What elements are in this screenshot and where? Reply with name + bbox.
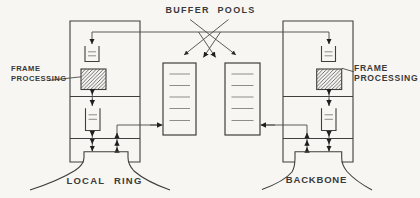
cross-arrow-to-right-pool [199, 32, 216, 57]
queue-slot-lines [88, 52, 96, 56]
queue-slot-lines [89, 115, 98, 120]
frame-processing-label-line1: FRAME [11, 64, 67, 74]
lower-queue-right [322, 108, 337, 130]
buffer-pools-leader-right [190, 20, 236, 55]
left-unit-outline [70, 21, 140, 162]
frame-processing-icon-right [317, 69, 342, 90]
left-bridge-unit [70, 21, 162, 162]
frame-processing-icon-left [81, 69, 106, 90]
buffer-pools-leader-left [184, 20, 228, 55]
frame-processing-label-left: FRAME PROCESSING [11, 64, 67, 84]
top-queue-right [322, 46, 336, 62]
buffer-pool-left [163, 63, 196, 135]
frame-processing-label-right: FRAME PROCESSING [354, 63, 418, 83]
right-unit-outline [283, 21, 353, 162]
queue-icon [322, 46, 336, 62]
local-ring-label: LOCAL RING [54, 175, 155, 186]
scanned-diagram-page: BUFFER POOLS FRAME PROCESSING FRAME PROC… [0, 0, 420, 198]
top-queue-left [85, 46, 99, 62]
lower-queue-left [86, 108, 101, 130]
diagram-canvas [0, 0, 420, 198]
buffer-pool-right [225, 63, 260, 135]
right-bridge-unit [261, 21, 353, 162]
queue-icon [85, 46, 99, 62]
queue-slot-lines [325, 52, 333, 56]
queue-slot-lines [325, 115, 334, 120]
frame-processing-leader-right [342, 68, 354, 72]
frame-processing-label-line2: PROCESSING [11, 74, 67, 84]
frame-processing-label-line2: PROCESSING [354, 73, 418, 83]
frame-processing-label-line1: FRAME [354, 63, 418, 73]
buffer-pools-label: BUFFER POOLS [160, 5, 261, 15]
cross-arrow-to-left-pool [203, 32, 220, 57]
backbone-label: BACKBONE [266, 174, 367, 185]
